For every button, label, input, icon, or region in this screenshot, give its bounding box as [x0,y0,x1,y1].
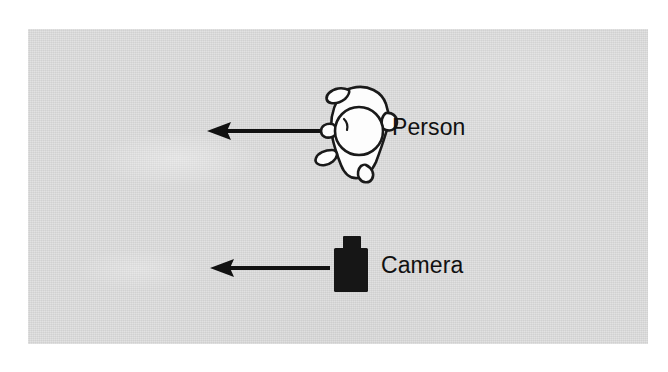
person-label: Person [392,114,465,141]
camera-label: Camera [381,252,463,279]
scene-panel [28,29,648,344]
figure-root: Person Camera [0,0,668,372]
